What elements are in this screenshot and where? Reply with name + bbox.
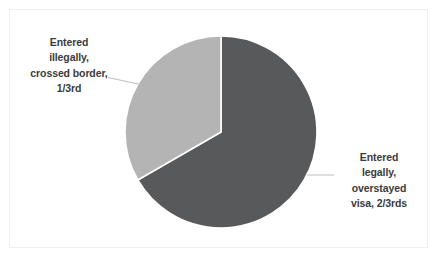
slice-label-entered-illegally: Entered illegally, crossed border, 1/3rd — [17, 35, 121, 96]
pie-chart-figure: Entered illegally, crossed border, 1/3rd… — [0, 0, 445, 260]
slice-label-line: overstayed — [330, 181, 428, 196]
slice-label-entered-legally: Entered legally, overstayed visa, 2/3rds — [330, 150, 428, 211]
slice-label-line: illegally, — [17, 50, 121, 65]
slice-label-line: legally, — [330, 165, 428, 180]
slice-label-line: Entered — [330, 150, 428, 165]
slice-label-line: 1/3rd — [17, 81, 121, 96]
slice-label-line: crossed border, — [17, 66, 121, 81]
slice-label-line: visa, 2/3rds — [330, 196, 428, 211]
slice-label-line: Entered — [17, 35, 121, 50]
